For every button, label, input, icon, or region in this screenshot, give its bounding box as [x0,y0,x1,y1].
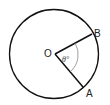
circle [10,10,99,99]
radius-ob [55,34,92,54]
center-label: O [44,48,52,59]
angle-label: θ° [62,55,70,64]
circle-diagram: O θ° B A [0,0,110,105]
point-b-label: B [94,28,101,39]
point-a-label: A [86,88,93,99]
angle-arc [70,43,78,72]
